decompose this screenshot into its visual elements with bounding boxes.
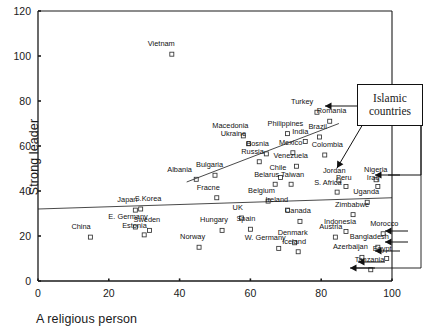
data-marker: [296, 250, 300, 254]
point-label: Estonia: [122, 222, 147, 230]
point-label: Belgium: [248, 187, 275, 195]
y-tick-label: 20: [19, 230, 31, 242]
data-marker: [257, 160, 261, 164]
point-label: Mexico: [279, 139, 302, 147]
point-label: Austria: [319, 223, 342, 231]
data-marker: [88, 235, 92, 239]
point-label: Uganda: [353, 188, 379, 196]
data-marker: [197, 245, 201, 249]
y-tick-label: 100: [13, 50, 31, 62]
point-label: Ukraine: [221, 130, 246, 138]
point-label: Azerbaijan: [333, 243, 368, 251]
point-label: Ireland: [266, 196, 289, 204]
y-tick-label: 120: [13, 5, 31, 17]
data-marker: [344, 230, 348, 234]
x-tick-label: 80: [315, 287, 327, 299]
point-label: Colombia: [312, 141, 343, 149]
point-label: Taiwan: [281, 171, 304, 179]
point-label: Venezuela: [273, 152, 308, 160]
data-marker: [317, 135, 321, 139]
x-tick-label: 40: [174, 287, 186, 299]
data-marker: [286, 132, 290, 136]
point-label: Denmark: [278, 229, 308, 237]
data-marker: [139, 207, 143, 211]
point-label: UK: [233, 204, 243, 212]
point-label: Norway: [180, 233, 205, 241]
data-marker: [148, 228, 152, 232]
data-marker: [328, 119, 332, 123]
point-label: Turkey: [291, 98, 313, 106]
data-marker: [333, 235, 337, 239]
data-marker: [344, 185, 348, 189]
point-label: Bangladesh: [350, 233, 389, 241]
y-axis-title: Strong leader: [27, 97, 41, 217]
data-marker: [385, 257, 389, 261]
point-label: Morocco: [370, 220, 398, 228]
data-marker: [215, 196, 219, 200]
x-tick-label: 100: [383, 287, 401, 299]
point-label: Zimbabwe: [335, 201, 369, 209]
data-marker: [264, 152, 268, 156]
point-label: Spain: [236, 215, 255, 223]
x-tick-label: 20: [103, 287, 115, 299]
point-label: Brazil: [308, 123, 326, 131]
data-marker: [220, 228, 224, 232]
point-label: Iceland: [282, 238, 306, 246]
data-marker: [335, 190, 339, 194]
data-marker: [323, 153, 327, 157]
data-marker: [142, 233, 146, 237]
point-label: Fracne: [197, 184, 220, 192]
data-marker: [298, 219, 302, 223]
data-marker: [294, 164, 298, 168]
data-marker: [303, 140, 307, 144]
point-label: S.Korea: [135, 195, 162, 203]
point-label: India: [292, 128, 308, 136]
point-label: Iraq: [367, 174, 380, 182]
point-label: Canada: [285, 207, 311, 215]
x-tick-label: 0: [35, 287, 41, 299]
arrow-to-iraq-path: [388, 124, 421, 175]
point-label: Egypt: [373, 245, 392, 253]
point-label: Vietnam: [148, 40, 175, 48]
callout-line-1: Islamic: [373, 92, 407, 106]
point-label: China: [71, 223, 90, 231]
arrow-to-azerbaijan-head: [350, 264, 357, 271]
x-axis-title: A religious person: [36, 312, 137, 326]
point-label: Romania: [317, 107, 347, 115]
point-label: Albania: [167, 166, 192, 174]
scatter-chart: 020406080100020406080100120 Strong leade…: [0, 0, 423, 334]
data-marker: [277, 246, 281, 250]
point-label: S. Africa: [314, 179, 342, 187]
point-label: Tanzania: [355, 256, 385, 264]
y-tick-label: 0: [25, 275, 31, 287]
data-marker: [289, 182, 293, 186]
point-label: Belarus: [254, 171, 279, 179]
x-tick-label: 60: [245, 287, 257, 299]
data-marker: [248, 227, 252, 231]
point-label: Russia: [241, 148, 264, 156]
axes-group: 020406080100020406080100120: [13, 5, 400, 299]
point-label: Hungary: [200, 216, 228, 224]
data-marker: [213, 173, 217, 177]
point-label: Bulgaria: [196, 161, 223, 169]
islamic-countries-callout: Islamic countries: [357, 84, 423, 126]
data-marker: [170, 52, 174, 56]
callout-line-2: countries: [369, 105, 411, 119]
